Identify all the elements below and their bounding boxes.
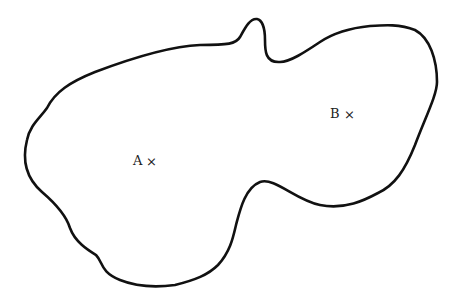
point-a-marker-icon: ×	[146, 154, 157, 169]
point-b-label: B	[330, 106, 340, 121]
region-boundary	[25, 19, 437, 286]
point-b: B ×	[330, 106, 355, 122]
point-a-label: A	[132, 153, 143, 168]
point-a: A ×	[132, 153, 157, 169]
point-b-marker-icon: ×	[344, 107, 355, 122]
diagram-canvas: A × B ×	[0, 0, 461, 302]
